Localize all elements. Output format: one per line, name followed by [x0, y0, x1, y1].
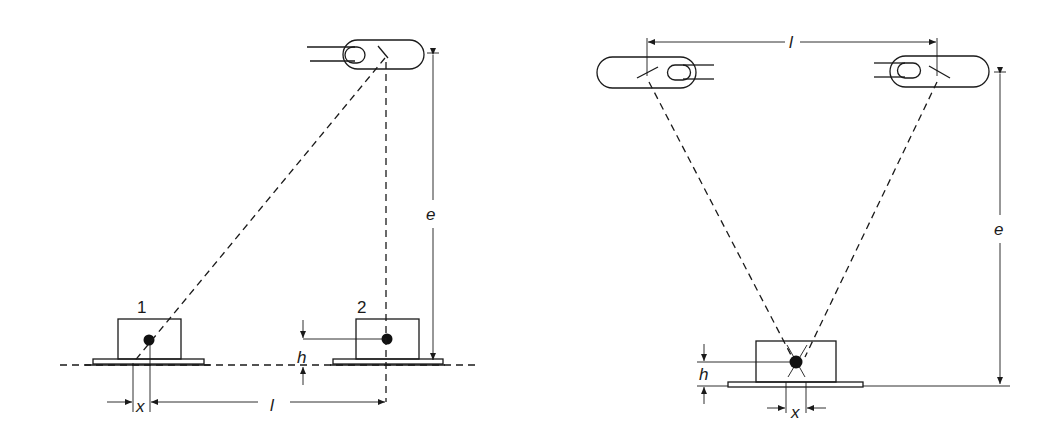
object-1-label: 1: [137, 298, 146, 317]
right-diagram: l e h x: [597, 33, 1010, 422]
left-diagram: 1 2 e h x l: [60, 40, 475, 416]
camera-left-icon: [597, 57, 714, 88]
object-1: [85, 319, 210, 365]
object-2-label: 2: [357, 298, 366, 317]
sight-line-right: [805, 82, 937, 357]
dim-x-label: x: [135, 397, 145, 416]
dim-h-right-label: h: [699, 365, 708, 384]
diagram-canvas: 1 2 e h x l: [0, 0, 1046, 434]
dim-l-top-label: l: [789, 33, 794, 52]
dim-x-right-label: x: [790, 403, 800, 422]
object-2: [330, 319, 445, 365]
dim-e-right-label: e: [994, 220, 1003, 239]
target-object: [728, 341, 863, 387]
dim-e-label: e: [426, 205, 435, 224]
camera-right-icon: [874, 56, 989, 87]
camera-icon: [307, 40, 424, 69]
dim-l-label: l: [270, 396, 275, 415]
sight-line-oblique: [133, 58, 385, 363]
dim-h-label: h: [297, 348, 306, 367]
sight-line-left: [649, 82, 792, 357]
